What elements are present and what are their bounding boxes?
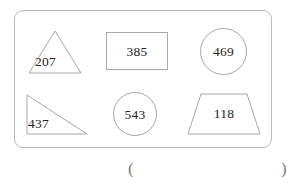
shapes-panel: 207 385 469 437 543 118 <box>14 10 272 148</box>
shape-circle-543[interactable]: 543 <box>113 92 157 136</box>
shape-right-triangle-437[interactable]: 437 <box>26 94 88 135</box>
shape-rectangle-385[interactable]: 385 <box>106 32 168 70</box>
answer-blank[interactable]: ( ) <box>0 158 295 188</box>
worksheet-page: 207 385 469 437 543 118 ( <box>0 0 295 193</box>
shape-label-right-triangle-437: 437 <box>28 117 49 131</box>
paren-open: ( <box>128 158 134 180</box>
shape-circle-469[interactable]: 469 <box>200 28 247 75</box>
shape-label-rectangle-385: 385 <box>107 45 167 59</box>
shape-label-circle-469: 469 <box>201 45 246 59</box>
shape-label-triangle-207: 207 <box>35 55 56 69</box>
shape-label-trapezoid-118: 118 <box>187 107 261 121</box>
shape-triangle-207[interactable]: 207 <box>28 30 82 74</box>
paren-close: ) <box>281 158 287 180</box>
shape-label-circle-543: 543 <box>114 108 156 122</box>
shape-trapezoid-118[interactable]: 118 <box>187 93 261 135</box>
